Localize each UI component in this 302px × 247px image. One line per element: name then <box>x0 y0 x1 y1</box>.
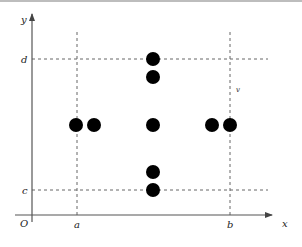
x-axis-label: x <box>282 218 288 229</box>
origin-label: O <box>20 218 28 229</box>
point-6 <box>87 118 101 132</box>
region-label-v: v <box>236 86 240 94</box>
points-group <box>69 52 237 197</box>
tick-label-a: a <box>74 219 80 230</box>
point-3 <box>146 165 160 179</box>
point-7 <box>205 118 219 132</box>
tick-label-b: b <box>227 219 233 230</box>
diagram-canvas: y x O a b d c v <box>0 0 302 247</box>
point-2 <box>146 118 160 132</box>
point-4 <box>146 183 160 197</box>
point-1 <box>146 70 160 84</box>
tick-label-d: d <box>21 54 27 65</box>
point-5 <box>69 118 83 132</box>
point-8 <box>223 118 237 132</box>
point-0 <box>146 52 160 66</box>
y-axis-label: y <box>20 14 27 25</box>
tick-label-c: c <box>22 185 28 196</box>
